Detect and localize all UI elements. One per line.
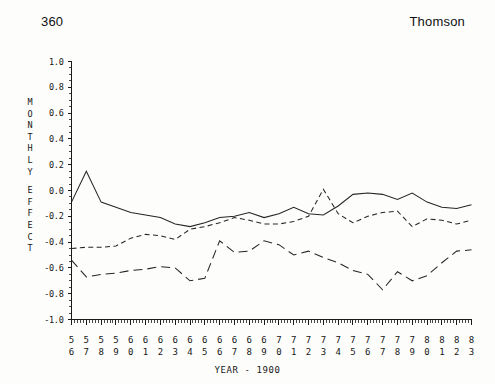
x-tick-label: 60 bbox=[124, 334, 138, 358]
x-tick-label: 79 bbox=[405, 334, 419, 358]
x-tick-label: 75 bbox=[346, 334, 360, 358]
y-tick-label: 0.4 bbox=[34, 134, 64, 144]
figure-panel: 360 Thomson MONTHLYEFFECT 1.00.80.60.40.… bbox=[0, 0, 495, 384]
x-tick-label: 80 bbox=[420, 334, 434, 358]
x-axis-label: YEAR - 1900 bbox=[0, 365, 495, 375]
x-tick-label: 78 bbox=[390, 334, 404, 358]
axis-ticks bbox=[68, 62, 472, 325]
y-tick-label: -1.0 bbox=[34, 315, 64, 325]
y-tick-label: 0.0 bbox=[34, 186, 64, 196]
x-tick-label: 64 bbox=[183, 334, 197, 358]
x-tick-label: 58 bbox=[94, 334, 108, 358]
y-tick-label: -0.6 bbox=[34, 263, 64, 273]
y-tick-label: 0.6 bbox=[34, 108, 64, 118]
x-tick-label: 69 bbox=[257, 334, 271, 358]
data-series-short-dash bbox=[72, 189, 472, 248]
chart-plot-area bbox=[0, 0, 495, 384]
x-tick-label: 63 bbox=[168, 334, 182, 358]
x-tick-label: 76 bbox=[361, 334, 375, 358]
x-tick-label: 74 bbox=[331, 334, 345, 358]
x-tick-label: 71 bbox=[287, 334, 301, 358]
x-tick-label: 65 bbox=[198, 334, 212, 358]
x-tick-label: 66 bbox=[213, 334, 227, 358]
y-tick-label: -0.2 bbox=[34, 211, 64, 221]
x-tick-label: 81 bbox=[435, 334, 449, 358]
x-tick-label: 83 bbox=[465, 334, 479, 358]
x-tick-label: 56 bbox=[65, 334, 79, 358]
x-tick-label: 59 bbox=[109, 334, 123, 358]
y-tick-label: -0.8 bbox=[34, 289, 64, 299]
y-tick-label: 0.2 bbox=[34, 160, 64, 170]
data-series-long-dash bbox=[72, 241, 472, 290]
x-tick-label: 68 bbox=[242, 334, 256, 358]
y-tick-label: 0.8 bbox=[34, 82, 64, 92]
x-tick-label: 61 bbox=[139, 334, 153, 358]
x-tick-label: 67 bbox=[227, 334, 241, 358]
x-tick-label: 73 bbox=[316, 334, 330, 358]
data-series-group bbox=[72, 171, 472, 290]
x-tick-label: 72 bbox=[302, 334, 316, 358]
data-series-solid bbox=[72, 171, 472, 226]
x-tick-label: 70 bbox=[272, 334, 286, 358]
y-tick-label: -0.4 bbox=[34, 237, 64, 247]
x-tick-label: 57 bbox=[79, 334, 93, 358]
x-tick-label: 77 bbox=[376, 334, 390, 358]
y-tick-label: 1.0 bbox=[34, 57, 64, 67]
x-tick-label: 82 bbox=[450, 334, 464, 358]
x-tick-label: 62 bbox=[153, 334, 167, 358]
